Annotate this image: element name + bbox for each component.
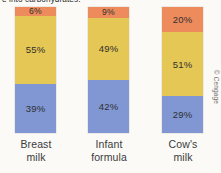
category-label-infant-formula: Infant formula bbox=[79, 138, 139, 163]
bar-segment-label: 39% bbox=[26, 104, 46, 114]
bar-segment-fat: 39% bbox=[15, 84, 56, 133]
category-label-line-1: Infant bbox=[79, 138, 139, 151]
bar-group-breast-milk: 6% 55% 39% bbox=[15, 7, 56, 133]
category-label-line-2: milk bbox=[156, 151, 210, 164]
copyright-credit: © Cengage bbox=[212, 70, 220, 104]
bar-segment-label: 51% bbox=[173, 60, 193, 70]
bar-segment-label: 49% bbox=[99, 44, 119, 54]
bar-segment-label: 9% bbox=[102, 8, 115, 17]
stacked-bar: 20% 51% 29% bbox=[162, 7, 203, 133]
stacked-bar: 6% 55% 39% bbox=[15, 7, 56, 133]
category-label-line-1: Cow's bbox=[156, 138, 210, 151]
category-label-cows-milk: Cow's milk bbox=[156, 138, 210, 163]
category-label-line-2: formula bbox=[79, 151, 139, 164]
bar-segment-label: 55% bbox=[26, 45, 46, 55]
category-label-line-2: milk bbox=[8, 151, 64, 164]
bar-segment-protein: 9% bbox=[88, 7, 129, 18]
bar-segment-carbohydrate: 55% bbox=[15, 16, 56, 85]
bar-group-cows-milk: 20% 51% 29% bbox=[162, 7, 203, 133]
category-label-line-1: Breast bbox=[8, 138, 64, 151]
figure-caption-text: e into carbohydrates. bbox=[0, 0, 221, 5]
bar-segment-label: 29% bbox=[173, 110, 193, 120]
bar-segment-label: 42% bbox=[99, 102, 119, 112]
bar-segment-fat: 42% bbox=[88, 80, 129, 133]
bar-segment-fat: 29% bbox=[162, 96, 203, 133]
stacked-bar: 9% 49% 42% bbox=[88, 7, 129, 133]
plot-area: 6% 55% 39% 9% 49% 42% bbox=[0, 7, 221, 133]
bar-group-infant-formula: 9% 49% 42% bbox=[88, 7, 129, 133]
bar-segment-label: 6% bbox=[29, 7, 42, 16]
category-axis-labels: Breast milk Infant formula Cow's milk bbox=[0, 138, 221, 170]
bar-segment-carbohydrate: 51% bbox=[162, 32, 203, 96]
stacked-bar-chart-figure: e into carbohydrates. 6% 55% 39% 9% bbox=[0, 0, 221, 173]
bar-segment-carbohydrate: 49% bbox=[88, 18, 129, 80]
bar-segment-label: 20% bbox=[173, 15, 193, 25]
bar-segment-protein: 6% bbox=[15, 7, 56, 16]
category-label-breast-milk: Breast milk bbox=[8, 138, 64, 163]
bar-segment-protein: 20% bbox=[162, 7, 203, 32]
